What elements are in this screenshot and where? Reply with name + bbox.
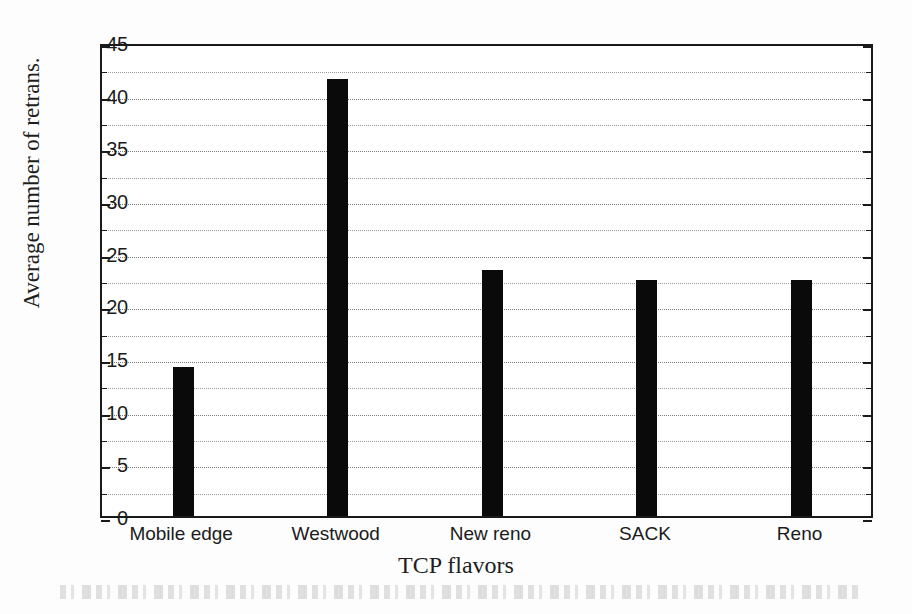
y-axis-tick-label: 35 [106,138,128,161]
y-axis-tick [101,441,107,442]
y-axis-tick-right [866,388,872,389]
y-axis-tick-right [866,494,872,495]
scan-bleed-artifact [60,585,860,599]
y-axis-tick-right [863,362,872,364]
y-axis-tick-right [863,520,872,522]
y-axis-tick-right [863,467,872,469]
y-axis-tick-right [863,415,872,417]
gridline [102,230,871,231]
y-axis-tick-label: 0 [117,507,128,530]
bar [482,270,503,516]
y-axis-tick-label: 20 [106,296,128,319]
x-axis-title: TCP flavors [0,552,912,579]
y-axis-tick [101,520,110,522]
y-axis-tick [101,230,107,231]
y-axis-tick-label: 40 [106,85,128,108]
y-axis-tick [101,125,107,126]
gridline [102,99,871,100]
y-axis-tick-right [863,309,872,311]
y-axis-tick [101,283,107,284]
y-axis-tick-label: 10 [106,401,128,424]
x-axis-tick-label: SACK [619,523,671,545]
y-axis-tick [101,72,107,73]
plot-area [100,44,873,518]
chart-page: 051015202530354045 Mobile edgeWestwoodNe… [0,0,912,614]
gridline [102,178,871,179]
gridline [102,257,871,258]
y-axis-tick-right [863,46,872,48]
gridline [102,204,871,205]
y-axis-tick-label: 15 [106,349,128,372]
x-axis-tick-label: Reno [777,523,822,545]
y-axis-tick-right [866,283,872,284]
y-axis-tick-right [863,257,872,259]
bar [791,280,812,516]
y-axis-tick [101,178,107,179]
y-axis-tick-right [866,125,872,126]
y-axis-tick-right [866,72,872,73]
x-axis-tick-label: Mobile edge [129,523,233,545]
gridline [102,151,871,152]
gridline [102,125,871,126]
bar [636,280,657,516]
y-axis-tick-right [866,441,872,442]
y-axis-tick-right [866,230,872,231]
y-axis-tick-right [866,336,872,337]
y-axis-tick-label: 45 [106,33,128,56]
x-axis-tick-label: Westwood [292,523,380,545]
y-axis-tick [101,388,107,389]
x-axis-tick-label: New reno [450,523,531,545]
y-axis-tick-label: 5 [117,454,128,477]
y-axis-title: Average number of retrans. [19,0,45,383]
y-axis-tick [101,494,107,495]
y-axis-tick-right [863,99,872,101]
y-axis-tick [101,467,110,469]
y-axis-tick-right [866,178,872,179]
y-axis-tick-label: 25 [106,243,128,266]
y-axis-tick-right [863,204,872,206]
y-axis-tick-right [863,151,872,153]
y-axis-tick-label: 30 [106,191,128,214]
y-axis-tick [101,336,107,337]
bar [173,367,194,516]
bar [327,79,348,516]
gridline [102,72,871,73]
